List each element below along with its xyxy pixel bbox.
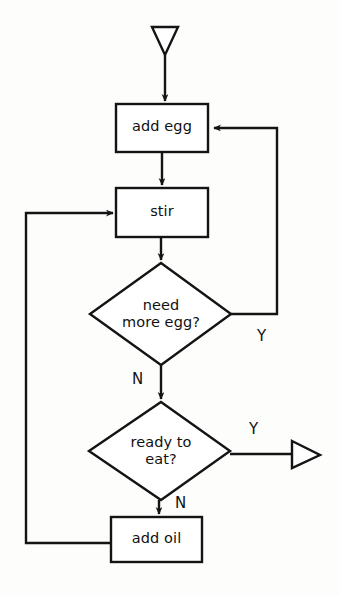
process-add-oil-shape <box>111 517 202 562</box>
flowchart-graphics <box>0 0 340 595</box>
decision-ready-to-eat-shape <box>89 402 230 500</box>
flowchart-diagram: add egg stir need more egg? ready to eat… <box>0 0 340 595</box>
edge-add-oil-to-stir <box>26 213 113 543</box>
process-stir-shape <box>116 188 208 237</box>
end-terminator-shape <box>292 441 320 468</box>
process-add-egg-shape <box>116 104 208 152</box>
start-terminator-shape <box>152 27 178 55</box>
edge-need-more-egg-yes-to-add-egg <box>214 128 277 314</box>
decision-need-more-egg-shape <box>90 263 231 365</box>
